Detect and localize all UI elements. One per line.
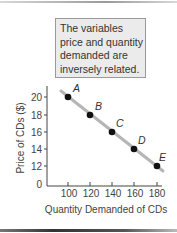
y-axis-title: Price of CDs ($)	[15, 102, 26, 173]
y-tick-16: 16	[31, 127, 43, 138]
x-tick-100: 100	[61, 188, 78, 199]
point-d	[131, 146, 138, 153]
point-label-d: D	[138, 134, 146, 146]
x-axis-title: Quantity Demanded of CDs	[45, 204, 167, 215]
y-tick-0: 0	[36, 179, 42, 190]
x-tick-160: 160	[127, 188, 144, 199]
y-tick-12: 12	[31, 161, 43, 172]
point-label-e: E	[159, 151, 167, 163]
x-tick-180: 180	[149, 188, 166, 199]
point-label-a: A	[72, 82, 80, 94]
y-ticks: 20 18 16 14 12 0	[31, 92, 47, 190]
x-tick-120: 120	[83, 188, 100, 199]
y-tick-18: 18	[31, 110, 43, 121]
bottom-rule	[0, 229, 177, 232]
x-tick-140: 140	[105, 188, 122, 199]
x-ticks: 100 120 140 160 180	[61, 182, 166, 199]
point-label-b: B	[95, 100, 102, 112]
point-c	[109, 129, 116, 136]
data-points: A B C D E	[65, 82, 167, 169]
y-tick-20: 20	[31, 92, 43, 103]
point-label-c: C	[116, 117, 124, 129]
point-a	[65, 94, 72, 101]
point-e	[154, 163, 161, 170]
demand-chart: 20 18 16 14 12 0 100 120 140 160 180 Qua…	[0, 0, 177, 233]
y-tick-14: 14	[31, 144, 43, 155]
point-b	[87, 112, 94, 119]
